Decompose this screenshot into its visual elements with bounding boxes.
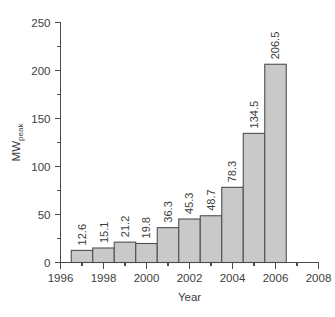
bar-value-label-2002: 45.3 [184, 193, 196, 214]
x-tick-label-2004: 2004 [220, 272, 246, 284]
bar-value-label-2000: 19.8 [141, 217, 153, 238]
bar-1997 [71, 250, 93, 262]
y-tick-label-100: 100 [31, 161, 50, 173]
y-tick-label-50: 50 [38, 209, 51, 221]
y-tick-label-0: 0 [44, 257, 50, 269]
x-tick-label-2006: 2006 [263, 272, 289, 284]
y-tick-label-200: 200 [31, 65, 50, 77]
x-tick-label-1998: 1998 [91, 272, 117, 284]
bar-value-label-1997: 12.6 [76, 224, 88, 245]
x-axis-title-text: Year [178, 291, 201, 303]
bar-2002 [179, 219, 201, 262]
bar-value-label-1999: 21.2 [119, 216, 131, 237]
bar-value-label-2005: 134.5 [248, 101, 260, 129]
x-tick-label-2008: 2008 [306, 272, 332, 284]
bar-1998 [93, 248, 115, 263]
x-tick-label-1996: 1996 [48, 272, 74, 284]
bar-value-label-2003: 48.7 [205, 189, 217, 210]
bar-value-label-2001: 36.3 [162, 201, 174, 222]
bar-2005 [243, 133, 265, 262]
bar-chart: 12.615.121.219.836.345.348.778.3134.5206… [0, 0, 335, 317]
bar-value-label-2006: 206.5 [270, 32, 282, 60]
x-tick-label-2000: 2000 [134, 272, 160, 284]
bar-2001 [157, 228, 179, 263]
bar-2004 [222, 187, 244, 262]
bar-value-label-1998: 15.1 [98, 222, 110, 243]
x-axis-title: Year [178, 291, 201, 303]
bar-value-label-2004: 78.3 [227, 161, 239, 182]
x-tick-label-2002: 2002 [177, 272, 203, 284]
bar-2003 [200, 216, 222, 263]
bar-2006 [265, 64, 287, 262]
y-tick-label-150: 150 [31, 113, 50, 125]
y-tick-label-250: 250 [31, 17, 50, 29]
y-axis-title-main: MW [10, 141, 22, 162]
y-axis-title-subscript: peak [16, 123, 25, 141]
bar-2000 [136, 243, 158, 262]
chart-canvas: 12.615.121.219.836.345.348.778.3134.5206… [0, 0, 335, 317]
bar-1999 [114, 242, 136, 262]
